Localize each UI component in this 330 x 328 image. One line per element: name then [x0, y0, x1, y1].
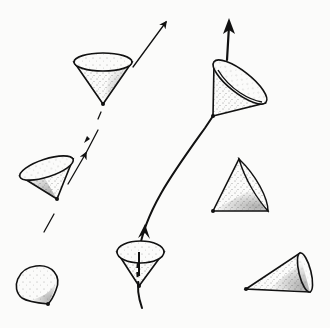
cone-tilted-top-right — [207, 53, 273, 118]
cone-sideways-bottom-right — [244, 252, 316, 294]
cone-blob-bottom-left — [16, 266, 57, 306]
cone-triangle-right — [211, 159, 268, 213]
diagram-canvas — [0, 0, 330, 328]
cone-tilted-left — [17, 151, 76, 201]
cone-upright-bottom — [117, 241, 164, 288]
arrow-lower-icon — [138, 224, 150, 239]
cone-upright-top — [74, 53, 132, 106]
light-cone-diagram — [0, 0, 330, 328]
arrow-mid-icon — [84, 136, 90, 143]
